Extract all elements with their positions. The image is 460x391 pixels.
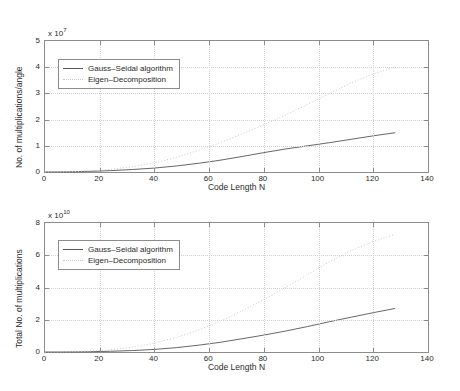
figure-container: x 107 No. of multiplications/angle Code … bbox=[0, 0, 460, 391]
x-tick-label: 80 bbox=[258, 354, 267, 363]
x-tick-label: 0 bbox=[42, 174, 46, 183]
y-tick-label: 0 bbox=[26, 347, 40, 356]
y-exponent-prefix-top: x 10 bbox=[48, 29, 63, 38]
y-tick bbox=[45, 146, 49, 147]
legend-line-solid-icon-top bbox=[63, 68, 83, 70]
x-tick bbox=[100, 223, 101, 227]
x-tick bbox=[100, 168, 101, 172]
y-tick bbox=[45, 255, 49, 256]
x-tick bbox=[264, 348, 265, 352]
y-tick-label: 2 bbox=[26, 114, 40, 123]
y-axis-title-bottom: Total No. of multiplications bbox=[14, 249, 24, 348]
legend-bottom: Gauss–Seidal algorithm Eigen–Decompositi… bbox=[58, 240, 180, 270]
y-tick-label: 6 bbox=[26, 250, 40, 259]
grid-line-vertical bbox=[209, 41, 210, 172]
y-tick bbox=[424, 120, 428, 121]
x-tick bbox=[209, 348, 210, 352]
legend-line-solid-icon-bottom bbox=[63, 249, 83, 251]
y-tick bbox=[45, 93, 49, 94]
legend-entry-eigen-decomposition-bottom: Eigen–Decomposition bbox=[63, 255, 173, 266]
series-line-gauss-seidal bbox=[45, 308, 395, 352]
x-tick-label: 140 bbox=[420, 174, 433, 183]
chart-panel-bottom: x 1010 Total No. of multiplications Code… bbox=[0, 196, 460, 391]
y-tick bbox=[424, 255, 428, 256]
x-tick bbox=[264, 41, 265, 45]
legend-label-gauss-seidal-top: Gauss–Seidal algorithm bbox=[88, 63, 173, 74]
x-tick bbox=[373, 41, 374, 45]
grid-line-vertical bbox=[373, 41, 374, 172]
x-tick bbox=[264, 223, 265, 227]
x-tick-label: 80 bbox=[258, 174, 267, 183]
x-tick-label: 60 bbox=[204, 354, 213, 363]
x-tick bbox=[264, 168, 265, 172]
y-tick bbox=[424, 146, 428, 147]
grid-line-vertical bbox=[264, 41, 265, 172]
y-tick bbox=[45, 120, 49, 121]
y-tick-label: 8 bbox=[26, 218, 40, 227]
x-tick bbox=[373, 223, 374, 227]
x-tick bbox=[209, 41, 210, 45]
x-tick-label: 20 bbox=[94, 354, 103, 363]
y-tick-label: 5 bbox=[26, 36, 40, 45]
x-tick bbox=[319, 348, 320, 352]
x-axis-title-top: Code Length N bbox=[44, 182, 429, 192]
y-exponent-label-bottom: x 1010 bbox=[48, 209, 70, 220]
legend-label-gauss-seidal-bottom: Gauss–Seidal algorithm bbox=[88, 244, 173, 255]
x-tick bbox=[319, 41, 320, 45]
x-tick-label: 120 bbox=[366, 174, 379, 183]
legend-line-dotted-icon-top bbox=[63, 79, 83, 81]
legend-entry-gauss-seidal-bottom: Gauss–Seidal algorithm bbox=[63, 244, 173, 255]
x-tick-label: 100 bbox=[311, 174, 324, 183]
x-tick-label: 40 bbox=[149, 354, 158, 363]
y-tick-label: 3 bbox=[26, 88, 40, 97]
y-exponent-value-top: 7 bbox=[63, 27, 66, 33]
x-tick bbox=[209, 223, 210, 227]
y-exponent-prefix-bottom: x 10 bbox=[48, 211, 63, 220]
grid-line-horizontal bbox=[45, 146, 428, 147]
legend-entry-gauss-seidal-top: Gauss–Seidal algorithm bbox=[63, 63, 173, 74]
x-tick bbox=[373, 348, 374, 352]
y-tick-label: 0 bbox=[26, 167, 40, 176]
x-tick bbox=[154, 348, 155, 352]
x-tick bbox=[209, 168, 210, 172]
legend-line-dotted-icon-bottom bbox=[63, 260, 83, 262]
x-tick bbox=[319, 223, 320, 227]
y-tick-label: 2 bbox=[26, 314, 40, 323]
y-exponent-label-top: x 107 bbox=[48, 27, 66, 38]
legend-label-eigen-decomposition-top: Eigen–Decomposition bbox=[88, 74, 166, 85]
series-line-gauss-seidal bbox=[45, 133, 395, 172]
x-tick-label: 140 bbox=[420, 354, 433, 363]
y-axis-title-top: No. of multiplications/angle bbox=[14, 66, 24, 168]
y-tick bbox=[45, 288, 49, 289]
legend-top: Gauss–Seidal algorithm Eigen–Decompositi… bbox=[58, 59, 180, 89]
legend-label-eigen-decomposition-bottom: Eigen–Decomposition bbox=[88, 255, 166, 266]
chart-panel-top: x 107 No. of multiplications/angle Code … bbox=[0, 0, 460, 196]
x-tick-label: 0 bbox=[42, 354, 46, 363]
x-tick-label: 40 bbox=[149, 174, 158, 183]
y-tick-label: 1 bbox=[26, 140, 40, 149]
grid-line-horizontal bbox=[45, 120, 428, 121]
x-tick bbox=[154, 223, 155, 227]
x-tick bbox=[100, 348, 101, 352]
y-exponent-value-bottom: 10 bbox=[63, 209, 70, 215]
y-tick bbox=[424, 67, 428, 68]
x-tick bbox=[100, 41, 101, 45]
x-tick bbox=[154, 41, 155, 45]
y-tick bbox=[424, 288, 428, 289]
y-tick bbox=[424, 320, 428, 321]
grid-line-horizontal bbox=[45, 93, 428, 94]
x-tick-label: 20 bbox=[94, 174, 103, 183]
grid-line-vertical bbox=[319, 41, 320, 172]
grid-line-horizontal bbox=[45, 288, 428, 289]
x-tick-label: 100 bbox=[311, 354, 324, 363]
x-tick-label: 120 bbox=[366, 354, 379, 363]
x-tick bbox=[373, 168, 374, 172]
y-tick bbox=[424, 93, 428, 94]
y-tick-label: 4 bbox=[26, 282, 40, 291]
y-tick bbox=[45, 320, 49, 321]
x-tick bbox=[154, 168, 155, 172]
y-tick bbox=[45, 67, 49, 68]
legend-entry-eigen-decomposition-top: Eigen–Decomposition bbox=[63, 74, 173, 85]
grid-line-horizontal bbox=[45, 320, 428, 321]
x-axis-title-bottom: Code Length N bbox=[44, 362, 429, 372]
